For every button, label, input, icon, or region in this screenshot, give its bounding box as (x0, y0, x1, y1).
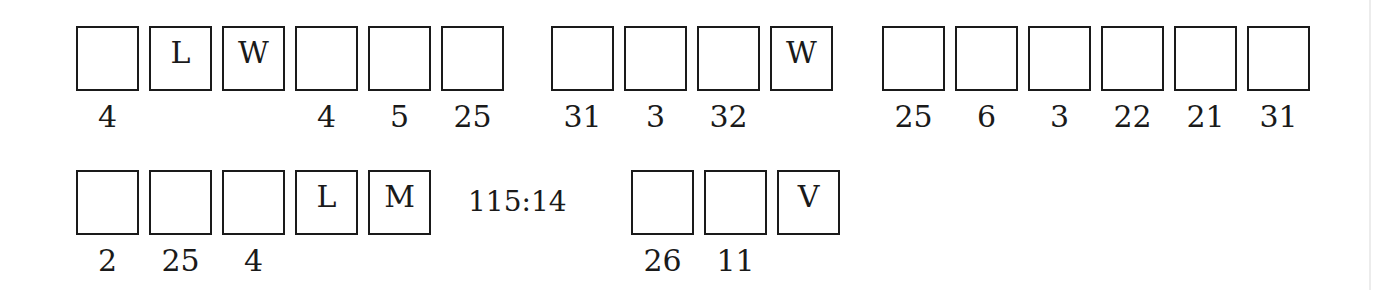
cipher-number: 4 (295, 102, 358, 132)
letter-cell: M (368, 170, 431, 235)
letter-box[interactable] (368, 26, 431, 91)
letter-box[interactable]: W (770, 26, 833, 91)
cipher-number: 32 (697, 102, 760, 132)
letter-box[interactable] (1101, 26, 1164, 91)
letter-text: V (798, 182, 820, 212)
letter-text: L (171, 38, 191, 68)
verse-reference: 115:14 (468, 188, 567, 216)
letter-cell: 2 (76, 170, 139, 235)
cipher-number: 3 (1028, 102, 1091, 132)
letter-box[interactable]: W (222, 26, 285, 91)
letter-cell: L (295, 170, 358, 235)
letter-cell: 25 (882, 26, 945, 91)
cipher-number: 11 (704, 246, 767, 276)
letter-cell: 21 (1174, 26, 1237, 91)
letter-cell: 26 (631, 170, 694, 235)
letter-box[interactable] (631, 170, 694, 235)
letter-box[interactable] (955, 26, 1018, 91)
letter-box[interactable] (1028, 26, 1091, 91)
cipher-number: 26 (631, 246, 694, 276)
letter-cell: 4 (76, 26, 139, 91)
letter-box[interactable]: V (777, 170, 840, 235)
letter-box[interactable]: L (295, 170, 358, 235)
cipher-number: 5 (368, 102, 431, 132)
letter-cell: 3 (624, 26, 687, 91)
letter-box[interactable] (624, 26, 687, 91)
cipher-number: 31 (1247, 102, 1310, 132)
letter-cell: W (222, 26, 285, 91)
cipher-number: 22 (1101, 102, 1164, 132)
cipher-number: 4 (222, 246, 285, 276)
letter-text: L (317, 182, 337, 212)
letter-box[interactable] (1247, 26, 1310, 91)
letter-text: M (384, 182, 415, 212)
letter-cell: 32 (697, 26, 760, 91)
letter-box[interactable] (76, 170, 139, 235)
letter-cell: 31 (551, 26, 614, 91)
letter-box[interactable] (295, 26, 358, 91)
letter-cell: 11 (704, 170, 767, 235)
letter-cell: V (777, 170, 840, 235)
cipher-number: 25 (149, 246, 212, 276)
letter-cell: 31 (1247, 26, 1310, 91)
letter-cell: 25 (149, 170, 212, 235)
cipher-number: 3 (624, 102, 687, 132)
letter-cell: L (149, 26, 212, 91)
letter-box[interactable]: M (368, 170, 431, 235)
letter-cell: 25 (441, 26, 504, 91)
letter-cell: 22 (1101, 26, 1164, 91)
letter-cell: 6 (955, 26, 1018, 91)
cipher-number: 25 (441, 102, 504, 132)
letter-box[interactable] (1174, 26, 1237, 91)
cipher-number: 21 (1174, 102, 1237, 132)
letter-box[interactable]: L (149, 26, 212, 91)
letter-text: W (786, 38, 817, 68)
letter-text: W (238, 38, 269, 68)
cipher-number: 6 (955, 102, 1018, 132)
letter-cell: 3 (1028, 26, 1091, 91)
letter-box[interactable] (149, 170, 212, 235)
cipher-number: 25 (882, 102, 945, 132)
letter-box[interactable] (222, 170, 285, 235)
letter-cell: 4 (222, 170, 285, 235)
letter-box[interactable] (882, 26, 945, 91)
letter-box[interactable] (76, 26, 139, 91)
letter-box[interactable] (551, 26, 614, 91)
letter-cell: 5 (368, 26, 431, 91)
letter-cell: 4 (295, 26, 358, 91)
letter-cell: W (770, 26, 833, 91)
cipher-number: 4 (76, 102, 139, 132)
page-edge-shadow (1369, 0, 1371, 290)
cipher-number: 2 (76, 246, 139, 276)
letter-box[interactable] (704, 170, 767, 235)
letter-box[interactable] (697, 26, 760, 91)
cipher-number: 31 (551, 102, 614, 132)
letter-box[interactable] (441, 26, 504, 91)
